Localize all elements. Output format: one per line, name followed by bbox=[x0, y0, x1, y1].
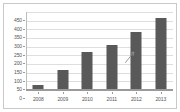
y-tick-label: 300 bbox=[14, 44, 22, 49]
y-tick-mark bbox=[23, 89, 25, 90]
y-tick-mark bbox=[23, 98, 25, 99]
bar-2012[interactable] bbox=[131, 32, 142, 89]
y-tick-label: 400 bbox=[14, 26, 22, 31]
bar-slot bbox=[26, 11, 51, 89]
bar-2013[interactable] bbox=[155, 18, 166, 89]
gridline bbox=[26, 90, 173, 91]
x-tick-label: 2008 bbox=[33, 96, 44, 102]
x-tick-mark bbox=[63, 92, 64, 94]
bar-2008[interactable] bbox=[33, 85, 44, 89]
y-tick-label: 50 bbox=[17, 87, 22, 92]
x-tick-label: 2011 bbox=[107, 96, 117, 102]
bar-series bbox=[26, 12, 173, 90]
x-tick-mark bbox=[112, 92, 113, 94]
y-tick-mark bbox=[23, 63, 25, 64]
y-tick-label: 200 bbox=[14, 61, 22, 66]
bar-slot bbox=[51, 11, 76, 89]
bar-2011[interactable] bbox=[106, 45, 117, 89]
y-tick-mark bbox=[23, 37, 25, 38]
chart-screenshot: 050100150200250300350400450 200820092010… bbox=[0, 0, 180, 112]
x-tick-mark bbox=[38, 92, 39, 94]
y-tick-label: 100 bbox=[14, 78, 22, 83]
x-tick-mark bbox=[136, 92, 137, 94]
bar-slot bbox=[75, 11, 100, 89]
bar-slot bbox=[124, 11, 149, 89]
x-tick-label: 2010 bbox=[82, 96, 93, 102]
y-tick-label: 250 bbox=[14, 52, 22, 57]
plot-wrapper: 050100150200250300350400450 200820092010… bbox=[4, 4, 176, 108]
x-tick-label: 2013 bbox=[155, 96, 166, 102]
y-tick-mark bbox=[23, 55, 25, 56]
chart-frame: 050100150200250300350400450 200820092010… bbox=[3, 3, 177, 109]
y-tick-label: 150 bbox=[14, 70, 22, 75]
bar-2009[interactable] bbox=[57, 70, 68, 89]
bar-2010[interactable] bbox=[82, 52, 93, 89]
y-tick-label: 450 bbox=[14, 18, 22, 23]
y-tick-mark bbox=[23, 46, 25, 47]
y-tick-mark bbox=[23, 72, 25, 73]
x-tick-label: 2012 bbox=[131, 96, 142, 102]
plot-area bbox=[26, 12, 173, 90]
x-axis-labels: 200820092010201120122013 bbox=[26, 92, 173, 106]
bar-slot bbox=[100, 11, 125, 89]
y-axis-labels: 050100150200250300350400450 bbox=[4, 12, 25, 90]
x-tick-mark bbox=[161, 92, 162, 94]
x-tick-mark bbox=[87, 92, 88, 94]
y-tick-label: 0 bbox=[19, 96, 22, 101]
x-tick-label: 2009 bbox=[57, 96, 68, 102]
y-tick-mark bbox=[23, 20, 25, 21]
y-tick-mark bbox=[23, 81, 25, 82]
y-tick-label: 350 bbox=[14, 35, 22, 40]
y-tick-mark bbox=[23, 29, 25, 30]
bar-slot bbox=[149, 11, 174, 89]
